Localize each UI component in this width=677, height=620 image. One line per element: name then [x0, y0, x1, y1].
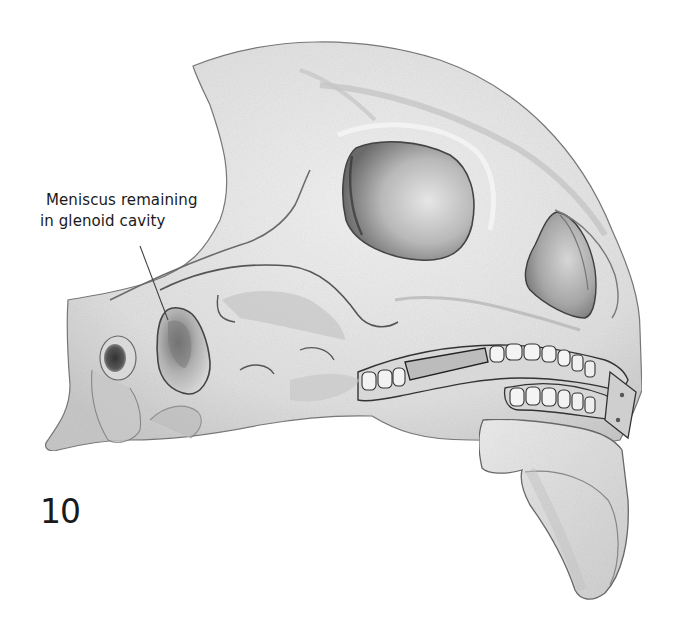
anatomical-illustration: Meniscus remaining in glenoid cavity 10: [0, 0, 677, 620]
figure-number: 10: [40, 492, 80, 531]
mandible-stump: [479, 419, 628, 599]
external-auditory-meatus: [100, 336, 136, 380]
annotation-line-1: Meniscus remaining: [46, 190, 198, 211]
annotation-line-2: in glenoid cavity: [40, 211, 198, 232]
annotation-label: Meniscus remaining in glenoid cavity: [46, 190, 198, 232]
skull-drawing: [0, 0, 677, 620]
